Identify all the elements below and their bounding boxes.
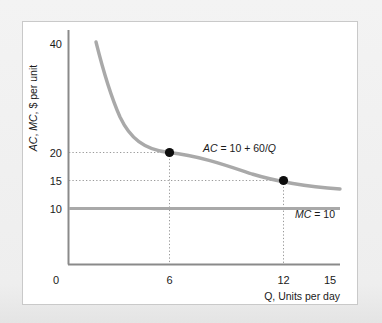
point-ac-at-12	[279, 176, 288, 185]
point-ac-at-6	[165, 148, 174, 157]
x-tick-label-6: 6	[166, 274, 172, 286]
x-tick-label-12: 12	[277, 274, 289, 286]
ac-curve	[96, 42, 340, 189]
ac-label-equation: = 10 + 60/	[218, 142, 268, 154]
y-tick-label-20: 20	[50, 147, 62, 159]
x-axis-title: Q, Units per day	[264, 290, 341, 302]
y-axis-title-rest: , $ per unit	[27, 65, 39, 115]
chart-plot: 40 20 15 10 0 6 12 15 AC, MC, $ per unit…	[0, 0, 382, 323]
y-tick-label-10: 10	[50, 203, 62, 215]
y-axis-title-mc: MC	[27, 114, 39, 131]
x-tick-label-0: 0	[53, 274, 59, 286]
ac-label-variable: Q	[268, 142, 276, 154]
y-tick-label-15: 15	[50, 175, 62, 187]
mc-label-symbol: MC	[295, 208, 312, 220]
y-axis-title: AC, MC, $ per unit	[27, 65, 39, 152]
figure-root: 40 20 15 10 0 6 12 15 AC, MC, $ per unit…	[0, 0, 382, 323]
mc-line-label: MC = 10	[295, 208, 335, 220]
ac-label-symbol: AC	[202, 142, 218, 154]
y-axis-title-ac: AC	[27, 136, 39, 152]
mc-label-equation: = 10	[311, 208, 335, 220]
y-tick-label-40: 40	[50, 38, 62, 50]
ac-curve-label: AC = 10 + 60/Q	[202, 142, 276, 154]
x-tick-label-15: 15	[324, 274, 336, 286]
